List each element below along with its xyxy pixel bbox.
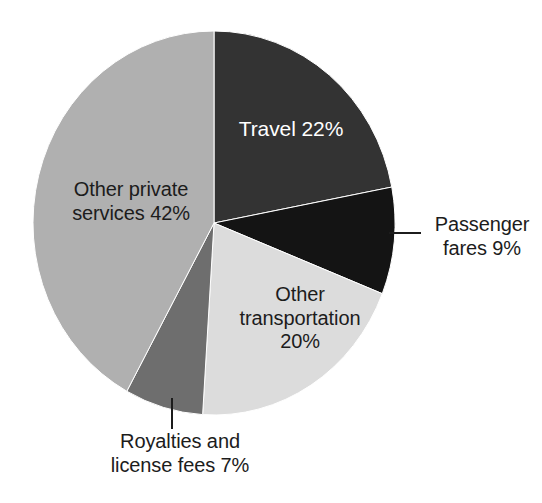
pie-chart-figure: Travel 22% Passenger fares 9% Other tran…	[0, 0, 542, 503]
pie-slices	[33, 31, 395, 415]
pie-chart-svg	[0, 0, 542, 503]
